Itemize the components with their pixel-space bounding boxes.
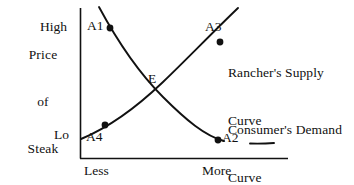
demand-curve-caption-line-2: Curve xyxy=(228,171,342,185)
point-label-a4: A4 xyxy=(86,130,103,144)
y-axis-title-line-1: Price xyxy=(6,48,80,62)
point-marker-a1 xyxy=(107,25,114,32)
x-axis-more-label: More xyxy=(202,164,231,178)
point-label-e: E xyxy=(148,72,156,86)
point-marker-a4 xyxy=(102,122,109,129)
point-label-a1: A1 xyxy=(87,19,104,33)
demand-curve-caption-line-1: Consumer's Demand xyxy=(228,123,342,137)
y-axis-title-line-3: Steak xyxy=(6,142,80,156)
x-axis-less-label: Less xyxy=(84,164,109,178)
y-axis-title-line-2: of xyxy=(6,95,80,109)
supply-curve-caption-line-1: Rancher's Supply xyxy=(228,66,324,80)
point-marker-a2 xyxy=(215,137,222,144)
y-axis-lo-label: Lo xyxy=(54,128,69,142)
point-marker-a3 xyxy=(217,39,224,46)
point-label-a3: A3 xyxy=(205,20,222,34)
y-axis-high-label: High xyxy=(40,20,67,34)
supply-demand-diagram: Price of Steak at the Market High Lo Les… xyxy=(0,0,354,185)
demand-curve-caption: Consumer's Demand Curve xyxy=(228,95,342,185)
y-axis-title: Price of Steak at the Market xyxy=(6,20,80,185)
